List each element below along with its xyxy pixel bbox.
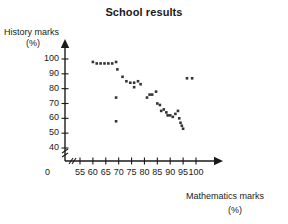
- data-point: [159, 104, 162, 107]
- data-point: [139, 83, 142, 86]
- data-point: [121, 76, 124, 79]
- data-point: [146, 96, 149, 99]
- data-point-group: [92, 61, 194, 130]
- y-tick-label: 50: [37, 127, 59, 137]
- y-tick-label: 100: [37, 53, 59, 63]
- data-point: [165, 111, 168, 114]
- data-point: [162, 108, 165, 111]
- data-point: [99, 62, 102, 65]
- data-point: [115, 120, 118, 123]
- data-point: [156, 102, 159, 105]
- data-point: [169, 114, 172, 117]
- y-tick-label: 40: [37, 142, 59, 152]
- data-point: [179, 121, 182, 124]
- y-tick-label: 60: [37, 112, 59, 122]
- y-tick-label: 70: [37, 98, 59, 108]
- data-point: [182, 127, 185, 130]
- data-point: [115, 96, 118, 99]
- y-tick-label: 90: [37, 68, 59, 78]
- data-point: [125, 80, 128, 83]
- y-tick-label: 80: [37, 83, 59, 93]
- data-point: [129, 81, 132, 84]
- data-point: [137, 80, 140, 83]
- data-point: [160, 110, 163, 113]
- data-point: [191, 77, 194, 80]
- scatter-chart: School results History marks (%) Mathema…: [0, 0, 288, 224]
- data-point: [103, 62, 106, 65]
- data-point: [133, 86, 136, 89]
- data-point: [116, 68, 119, 71]
- data-point: [107, 62, 110, 65]
- data-point: [174, 113, 177, 116]
- data-point: [181, 124, 184, 127]
- data-point: [148, 93, 151, 96]
- data-point: [111, 62, 114, 65]
- x-tick-label: 100: [187, 167, 205, 177]
- data-point: [166, 114, 169, 117]
- data-point: [155, 90, 158, 93]
- data-point: [151, 93, 154, 96]
- data-point: [115, 61, 118, 64]
- data-point: [177, 110, 180, 113]
- data-point: [95, 62, 98, 65]
- data-point: [178, 117, 181, 120]
- data-point: [186, 77, 189, 80]
- data-point: [172, 116, 175, 119]
- data-point: [133, 81, 136, 84]
- data-point: [92, 61, 95, 64]
